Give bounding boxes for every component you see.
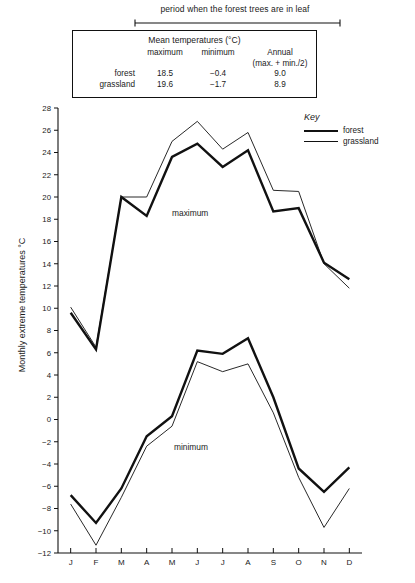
x-tick-label: O [296,558,302,567]
y-tick-label: 28 [42,104,51,113]
y-tick-label: 18 [42,215,51,224]
y-tick-label: 8 [47,326,51,335]
x-tick-label: M [118,558,125,567]
data-series-group [71,121,350,545]
y-tick-label: −6 [42,482,51,491]
x-axis-group: JFMAMJJASOND [58,548,362,567]
x-tick-label: J [69,558,73,567]
y-tick-label: 16 [42,237,51,246]
y-tick-label: −4 [42,460,52,469]
y-tick-label: −8 [42,504,51,513]
x-tick-label: N [321,558,327,567]
x-tick-label: J [221,558,225,567]
annotation-maximum: maximum [172,208,208,218]
x-tick-label: J [195,558,199,567]
y-tick-label: 20 [42,193,51,202]
y-tick-label: 4 [47,371,52,380]
y-axis-group: 2826242220181614121086420−2−4−6−8−10−12 [38,104,58,558]
x-tick-label: F [94,558,99,567]
y-tick-label: 2 [47,393,51,402]
y-tick-label: 24 [42,148,51,157]
series-line-grassland-minimum [71,362,350,546]
y-tick-label: 10 [42,304,51,313]
annotation-minimum: minimum [174,442,208,452]
y-tick-label: 22 [42,171,51,180]
y-tick-label: −10 [38,527,52,536]
series-line-forest-maximum [71,144,350,350]
x-tick-label: M [169,558,176,567]
y-tick-label: 6 [47,349,51,358]
y-tick-label: −12 [38,549,51,558]
temperature-line-chart: 2826242220181614121086420−2−4−6−8−10−12 … [0,0,415,583]
x-tick-label: A [245,558,251,567]
y-tick-label: 0 [47,415,52,424]
x-tick-label: A [144,558,150,567]
y-tick-label: −2 [42,438,51,447]
y-tick-label: 14 [42,260,51,269]
x-tick-label: S [271,558,276,567]
x-tick-label: D [346,558,352,567]
y-tick-label: 26 [42,126,51,135]
y-tick-label: 12 [42,282,51,291]
